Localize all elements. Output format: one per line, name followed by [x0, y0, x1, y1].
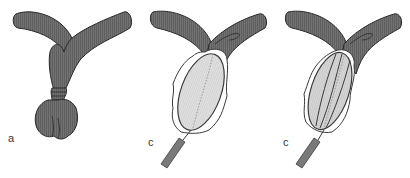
fundus-lobe [35, 99, 77, 139]
catheter [296, 138, 320, 168]
balloon-inserted-illustration [135, 0, 272, 178]
panel-c2: c [270, 0, 407, 178]
panel-a: a [0, 0, 137, 178]
panel-label: a [8, 132, 14, 144]
panel-c1: c [135, 0, 272, 178]
balloon-inflated-illustration [270, 0, 407, 178]
panel-label: c [148, 136, 154, 148]
left-horn [285, 11, 346, 56]
organ-constricted-illustration [0, 0, 137, 178]
panel-label: c [283, 136, 289, 148]
left-horn [150, 11, 211, 56]
left-horn [13, 12, 73, 55]
catheter [161, 138, 185, 168]
constriction [51, 88, 66, 100]
right-horn-body [49, 12, 131, 90]
